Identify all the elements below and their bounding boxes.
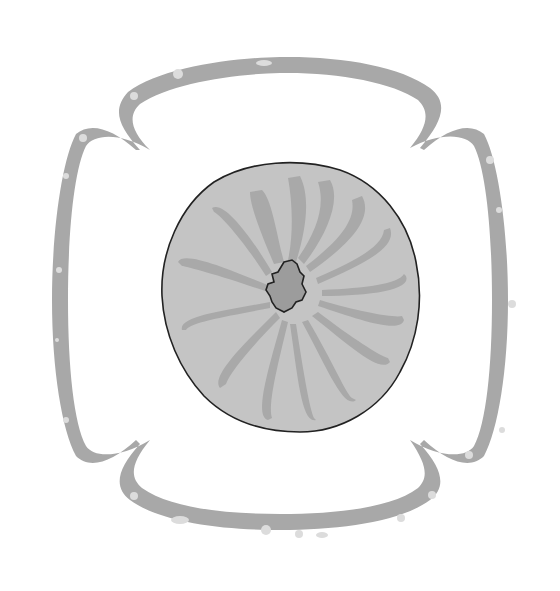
central-body <box>162 163 420 432</box>
illustration-canvas <box>0 0 560 591</box>
cross-section-illustration <box>0 0 560 591</box>
